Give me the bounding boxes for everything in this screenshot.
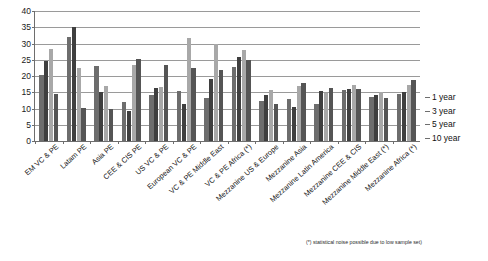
bar bbox=[384, 98, 388, 141]
x-axis-label-wrap: Latam PE bbox=[59, 143, 88, 170]
bar-group bbox=[118, 11, 146, 141]
bar bbox=[301, 83, 305, 141]
x-axis-tick bbox=[200, 141, 201, 144]
x-axis-tick bbox=[283, 141, 284, 144]
bar bbox=[369, 97, 373, 141]
legend-tick bbox=[425, 97, 430, 98]
bar bbox=[264, 95, 268, 141]
x-axis-tick bbox=[393, 141, 394, 144]
bar bbox=[397, 94, 401, 141]
bar-chart: 0510152025303540 EM VC & PELatam PEAsia … bbox=[0, 0, 488, 261]
x-axis-label: Latam PE bbox=[59, 143, 88, 170]
bar bbox=[347, 89, 351, 141]
bar bbox=[81, 108, 85, 141]
bar bbox=[204, 98, 208, 141]
bar bbox=[329, 88, 333, 141]
bar bbox=[132, 65, 136, 141]
bar bbox=[127, 111, 131, 141]
x-axis-tick bbox=[90, 141, 91, 144]
bar bbox=[49, 49, 53, 141]
legend-item-1-year: 1 year bbox=[432, 92, 460, 103]
bar-group bbox=[393, 11, 421, 141]
bar-group bbox=[35, 11, 63, 141]
bar bbox=[297, 86, 301, 141]
x-axis-tick bbox=[228, 141, 229, 144]
legend-item-3-year: 3 year bbox=[432, 106, 460, 117]
chart-legend: 1 year3 year5 year10 year bbox=[432, 92, 460, 144]
bar-group bbox=[255, 11, 283, 141]
y-axis-tick-label: 40 bbox=[22, 7, 31, 16]
bar bbox=[324, 93, 328, 141]
bar bbox=[237, 57, 241, 142]
x-axis-tick bbox=[310, 141, 311, 144]
bar bbox=[407, 85, 411, 141]
y-axis-tick-label: 20 bbox=[22, 72, 31, 81]
bar bbox=[177, 91, 181, 141]
bar bbox=[214, 44, 218, 142]
bar bbox=[219, 70, 223, 141]
bar bbox=[191, 68, 195, 141]
bar bbox=[99, 92, 103, 141]
bar bbox=[109, 109, 113, 141]
bar-group bbox=[145, 11, 173, 141]
x-axis-tick bbox=[145, 141, 146, 144]
bar-group bbox=[228, 11, 256, 141]
x-axis-tick bbox=[118, 141, 119, 144]
bar bbox=[104, 86, 108, 141]
x-axis-tick bbox=[255, 141, 256, 144]
bar bbox=[352, 85, 356, 141]
y-axis-tick-label: 0 bbox=[26, 137, 31, 146]
bar bbox=[67, 37, 71, 141]
x-axis-label-wrap: Asia PE bbox=[91, 143, 115, 166]
bar bbox=[269, 90, 273, 141]
legend-tick bbox=[425, 138, 430, 139]
bar-group bbox=[90, 11, 118, 141]
legend-label: 3 year bbox=[432, 107, 456, 116]
bar bbox=[356, 89, 360, 141]
bar bbox=[274, 104, 278, 141]
y-axis-tick-label: 30 bbox=[22, 39, 31, 48]
bar bbox=[314, 104, 318, 141]
y-axis-tick-label: 25 bbox=[22, 56, 31, 65]
plot-area: 0510152025303540 bbox=[34, 11, 420, 142]
bar bbox=[72, 27, 76, 141]
bar-group bbox=[283, 11, 311, 141]
bar bbox=[94, 66, 98, 141]
bar bbox=[342, 90, 346, 141]
y-axis-tick-label: 5 bbox=[26, 121, 31, 130]
legend-item-5-year: 5 year bbox=[432, 119, 460, 130]
bar bbox=[159, 87, 163, 141]
bar bbox=[182, 104, 186, 141]
bar bbox=[411, 80, 415, 141]
legend-label: 10 year bbox=[432, 134, 460, 143]
legend-label: 1 year bbox=[432, 93, 456, 102]
x-axis-tick bbox=[63, 141, 64, 144]
bar bbox=[232, 67, 236, 141]
bar bbox=[149, 95, 153, 141]
x-axis-label: Asia PE bbox=[91, 143, 115, 166]
bar bbox=[164, 65, 168, 141]
bar bbox=[242, 50, 246, 141]
legend-label: 5 year bbox=[432, 120, 456, 129]
bar bbox=[136, 59, 140, 141]
bar-group bbox=[63, 11, 91, 141]
x-axis-tick bbox=[338, 141, 339, 144]
bar bbox=[54, 94, 58, 141]
legend-tick bbox=[425, 124, 430, 125]
bar bbox=[402, 92, 406, 141]
bar-group bbox=[338, 11, 366, 141]
bar-group bbox=[173, 11, 201, 141]
bar bbox=[209, 79, 213, 141]
bar bbox=[287, 99, 291, 141]
legend-tick bbox=[425, 111, 430, 112]
bar bbox=[292, 107, 296, 141]
legend-item-10-year: 10 year bbox=[432, 133, 460, 144]
y-axis-tick-label: 35 bbox=[22, 23, 31, 32]
x-axis-tick bbox=[365, 141, 366, 144]
bar bbox=[39, 75, 43, 141]
x-axis-label: EM VC & PE bbox=[24, 143, 60, 177]
x-axis-label-wrap: EM VC & PE bbox=[24, 143, 60, 177]
bar bbox=[122, 102, 126, 141]
bar-group bbox=[310, 11, 338, 141]
x-axis-label-wrap: Mezzanine Africa (*) bbox=[364, 143, 418, 193]
